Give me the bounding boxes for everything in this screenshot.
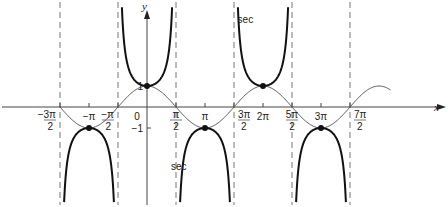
x-tick-label-denominator: 2 [289,121,295,132]
x-tick-label: 7π [354,109,367,120]
x-tick-label: 2π [257,111,270,122]
axes [2,10,446,205]
x-axis-label: x [433,101,439,113]
intersection-point [318,125,324,131]
secant-cosine-plot: xy−3π2−π−π2π2π3π22π5π23π7π21−10secsec [0,0,448,207]
x-tick-label: π [202,111,209,122]
sec-annotation: sec [171,161,187,172]
intersection-point [202,125,208,131]
intersection-point [144,83,150,89]
sec-branch [64,128,114,202]
x-tick-label-denominator: 2 [173,121,179,132]
intersection-point [86,125,92,131]
x-tick-label: −π [101,109,114,120]
x-tick-label-denominator: 2 [241,121,247,132]
x-tick-label-denominator: 2 [47,121,53,132]
x-tick-label: −3π [38,109,56,120]
x-tick-label: 3π [315,111,328,122]
x-tick-label-denominator: 2 [357,121,363,132]
sec-branch [180,128,230,202]
origin-label: 0 [134,111,140,122]
x-tick-label: 5π [286,109,299,120]
x-tick-label: π [173,109,180,120]
x-tick-label: −π [83,111,96,122]
y-axis-label: y [141,0,147,12]
intersection-point [260,83,266,89]
x-tick-label-denominator: 2 [105,121,111,132]
y-tick-label: −1 [132,123,144,134]
sec-annotation: sec [238,14,254,25]
sec-branch [296,128,346,202]
y-tick-label: 1 [137,81,143,92]
curves [60,7,391,202]
x-tick-label: 3π [238,109,251,120]
